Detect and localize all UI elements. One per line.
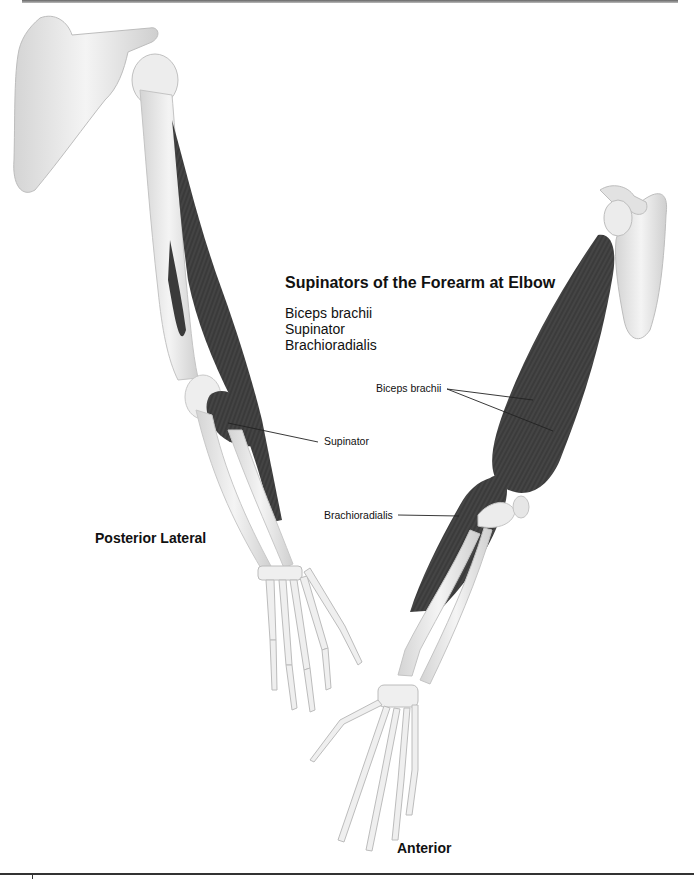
bottom-rule	[0, 873, 694, 875]
right-hand-bones	[310, 685, 418, 851]
view-label-anterior: Anterior	[397, 840, 451, 856]
muscle-list: Biceps brachii Supinator Brachioradialis	[285, 305, 377, 353]
callout-biceps-brachii: Biceps brachii	[376, 382, 441, 394]
brachioradialis-leader-line	[398, 515, 459, 516]
callout-supinator: Supinator	[324, 435, 369, 447]
left-arm-posterior-lateral	[14, 16, 362, 712]
muscle-list-item: Biceps brachii	[285, 305, 377, 321]
callout-brachioradialis: Brachioradialis	[324, 509, 393, 521]
muscle-list-item: Supinator	[285, 321, 377, 337]
view-label-posterior-lateral: Posterior Lateral	[95, 530, 206, 546]
diagram-title: Supinators of the Forearm at Elbow	[285, 274, 555, 292]
bottom-tick	[32, 873, 33, 879]
left-hand-bones	[258, 566, 362, 712]
muscle-list-item: Brachioradialis	[285, 337, 377, 353]
